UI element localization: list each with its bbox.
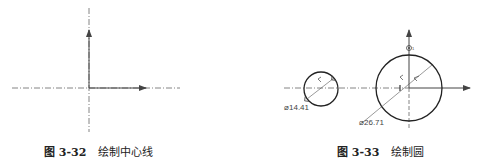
- svg-text:1: 1: [412, 46, 415, 51]
- small-circle-diameter-label: ⌀14.41: [284, 103, 309, 112]
- centerline-figure: [12, 8, 180, 132]
- drawing-canvas: 1: [0, 0, 484, 163]
- circle-figure: 1: [284, 30, 470, 130]
- figure-number: 图 3-33: [337, 146, 379, 159]
- figure-caption-right: 图 3-33绘制圆: [337, 143, 424, 159]
- figure-number: 图 3-32: [44, 146, 86, 159]
- figure-caption-left: 图 3-32绘制中心线: [44, 143, 153, 159]
- large-circle-dimension-line: [362, 65, 432, 123]
- figure-title: 绘制中心线: [98, 146, 153, 159]
- large-circle-diameter-label: ⌀26.71: [359, 118, 384, 127]
- figure-title: 绘制圆: [391, 146, 424, 159]
